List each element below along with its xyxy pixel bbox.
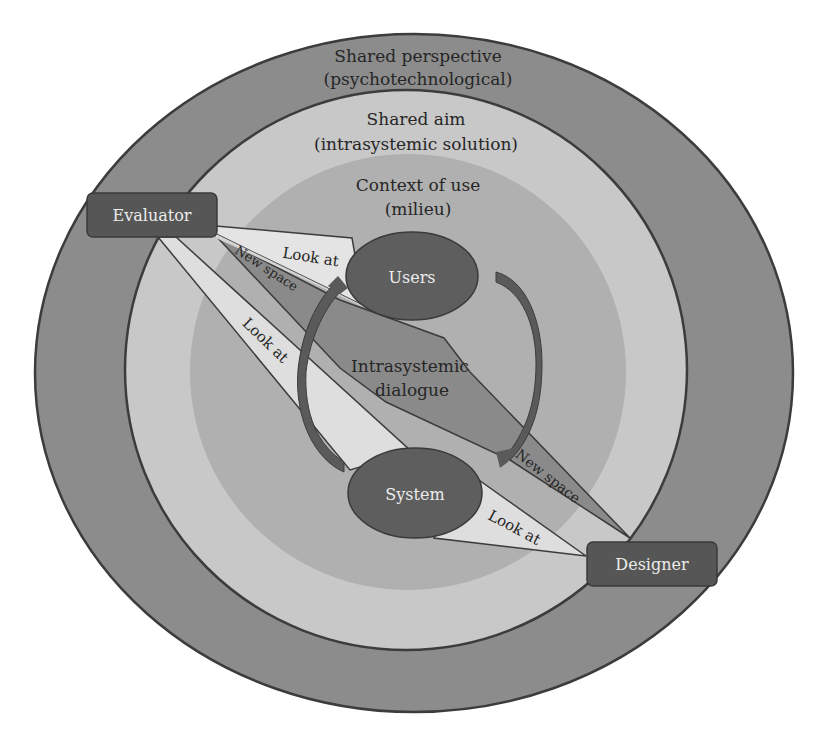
concentric-diagram: Shared perspective (psychotechnological)… — [0, 0, 825, 734]
context-subtitle: (milieu) — [385, 199, 452, 219]
users-label: Users — [388, 268, 435, 287]
evaluator-label: Evaluator — [113, 206, 192, 225]
designer-label: Designer — [615, 555, 689, 574]
context-title: Context of use — [356, 175, 481, 195]
diagram-canvas: Shared perspective (psychotechnological)… — [0, 0, 825, 734]
intrasystemic-dialogue-line1: Intrasystemic — [351, 356, 469, 376]
system-label: System — [385, 485, 444, 504]
intrasystemic-dialogue-line2: dialogue — [375, 380, 449, 400]
middle-ring-title: Shared aim — [367, 109, 466, 129]
outer-ring-subtitle: (psychotechnological) — [324, 69, 513, 89]
middle-ring-subtitle: (intrasystemic solution) — [314, 134, 518, 154]
outer-ring-title: Shared perspective — [334, 46, 501, 66]
